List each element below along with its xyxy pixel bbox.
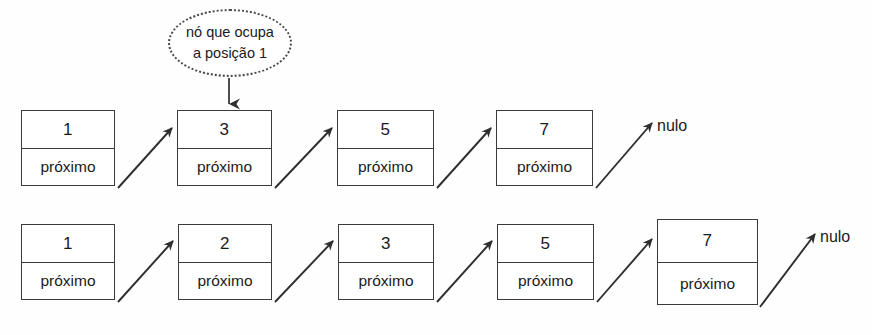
callout-bubble: nó que ocupa a posição 1 [168,9,292,77]
node-row1-3: 7 próximo [496,110,593,186]
node-link: próximo [339,262,433,299]
node-link: próximo [658,262,757,304]
node-value: 5 [498,225,593,262]
node-row2-4: 7 próximo [657,219,758,305]
node-value: 3 [178,111,271,148]
node-row2-1: 2 próximo [178,224,272,300]
node-link: próximo [22,148,114,185]
pointer-arrow-row1-2 [437,128,491,188]
node-link: próximo [22,262,114,299]
node-value: 7 [497,111,592,148]
node-value: 5 [338,111,433,148]
node-row1-1: 3 próximo [177,110,272,186]
node-link: próximo [338,148,433,185]
node-row1-2: 5 próximo [337,110,434,186]
linked-list-diagram: nó que ocupa a posição 1 1 próximo 3 pró… [0,0,872,335]
node-row2-3: 5 próximo [497,224,594,300]
callout-line-1: nó que ocupa [186,22,274,43]
node-link: próximo [497,148,592,185]
pointer-arrow-row2-3 [597,239,652,302]
node-value: 1 [22,225,114,262]
pointer-arrow-row2-1 [275,241,333,302]
pointer-arrow-row2-4-null [760,234,815,307]
pointer-arrow-row1-1 [275,128,332,188]
node-row2-2: 3 próximo [338,224,434,300]
pointer-arrow-row2-2 [437,241,492,302]
node-link: próximo [498,262,593,299]
node-row1-0: 1 próximo [21,110,115,186]
null-label-row2: nulo [820,228,850,246]
pointer-arrow-row2-0 [118,241,173,302]
node-row2-0: 1 próximo [21,224,115,300]
node-value: 7 [658,220,757,262]
node-link: próximo [178,148,271,185]
node-value: 1 [22,111,114,148]
pointer-arrow-row1-0 [118,128,172,188]
null-label-row1: nulo [657,117,687,135]
node-value: 3 [339,225,433,262]
node-link: próximo [179,262,271,299]
node-value: 2 [179,225,271,262]
callout-line-2: a posição 1 [193,43,267,64]
pointer-arrow-row1-3-null [596,123,652,188]
